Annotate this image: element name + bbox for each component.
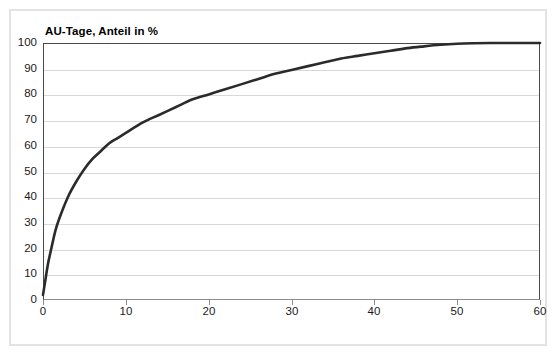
data-curve-layer <box>0 0 558 356</box>
chart-figure: AU-Tage, Anteil in % 0102030405060708090… <box>0 0 558 356</box>
series-line-konzentrationskurve <box>43 43 540 295</box>
